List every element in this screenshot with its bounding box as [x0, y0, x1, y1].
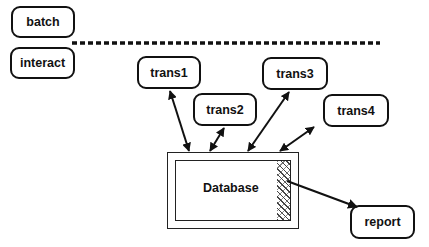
diagram-canvas: batch interact trans1 trans2 trans3 tran… [0, 0, 429, 247]
trans2-database-arrow [210, 128, 224, 151]
trans3-database-arrow [248, 92, 289, 151]
trans1-database-arrow [170, 91, 189, 151]
connectors-layer [0, 0, 429, 247]
trans4-database-arrow [280, 127, 314, 151]
database-report-arrow [287, 181, 357, 207]
